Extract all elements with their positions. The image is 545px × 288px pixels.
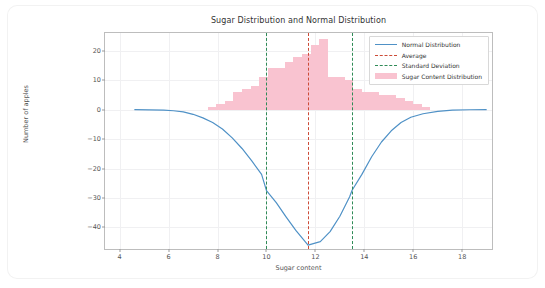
y-tick-mark [102,50,105,51]
y-tick-label: 10 [93,76,101,84]
legend-key-mark [375,44,397,45]
x-tick-label: 10 [262,253,270,261]
legend-label: Sugar Content Distribution [402,73,482,80]
legend-key-mark [375,55,397,56]
y-tick-mark [102,139,105,140]
x-tick-label: 8 [215,253,219,261]
y-tick-label: −30 [87,194,101,202]
legend-swatch-icon [375,62,397,69]
x-tick-mark [462,249,463,252]
legend-item[interactable]: Normal Distribution [375,41,482,48]
matplotlib-figure: Sugar Distribution and Normal Distributi… [8,6,537,278]
y-tick-label: −10 [87,135,101,143]
legend-label: Average [402,52,427,59]
x-tick-mark [217,249,218,252]
x-tick-mark [315,249,316,252]
legend-label: Standard Deviation [402,62,460,69]
y-tick-label: −40 [87,223,101,231]
legend-key-mark [375,73,397,79]
chart-card: Sugar Distribution and Normal Distributi… [8,6,537,278]
y-tick-mark [102,80,105,81]
legend-item[interactable]: Standard Deviation [375,62,482,69]
x-tick-mark [266,249,267,252]
legend-item[interactable]: Sugar Content Distribution [375,73,482,80]
legend-label: Normal Distribution [402,41,461,48]
legend-swatch-icon [375,52,397,59]
legend-key-mark [375,65,397,66]
legend-item[interactable]: Average [375,52,482,59]
legend-swatch-icon [375,41,397,48]
screenshot-root: Sugar Distribution and Normal Distributi… [0,0,545,288]
y-tick-mark [102,197,105,198]
x-axis-label: Sugar content [104,264,493,272]
y-tick-label: −20 [87,165,101,173]
y-axis-label: Number of apples [22,64,30,164]
y-tick-label: 20 [93,47,101,55]
x-tick-label: 4 [118,253,122,261]
y-tick-label: 0 [97,106,101,114]
x-tick-label: 6 [167,253,171,261]
y-tick-mark [102,168,105,169]
x-tick-mark [413,249,414,252]
y-tick-mark [102,109,105,110]
legend-swatch-icon [375,73,397,80]
y-tick-mark [102,227,105,228]
x-tick-label: 18 [458,253,466,261]
chart-title: Sugar Distribution and Normal Distributi… [104,16,493,25]
x-tick-mark [364,249,365,252]
plot-axes: 20100−10−20−30−404681012141618 Normal Di… [104,32,493,250]
x-tick-label: 12 [311,253,319,261]
x-tick-mark [168,249,169,252]
x-tick-label: 14 [360,253,368,261]
x-tick-mark [119,249,120,252]
chart-legend: Normal DistributionAverageStandard Devia… [369,36,489,85]
x-tick-label: 16 [409,253,417,261]
